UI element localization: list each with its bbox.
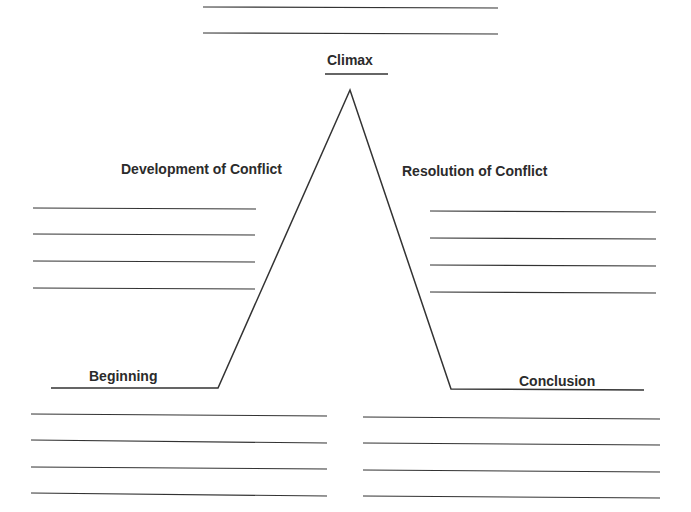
beginning-writing-line (31, 414, 327, 416)
resolution-writing-line (430, 292, 656, 293)
beginning-writing-line (31, 493, 327, 496)
climax-writing-line (203, 7, 498, 8)
beginning-label: Beginning (89, 368, 157, 384)
conclusion-label: Conclusion (519, 373, 595, 389)
plot-diagram-canvas (0, 0, 691, 512)
climax-writing-line (203, 33, 498, 34)
development-writing-line (33, 234, 255, 235)
development-writing-line (33, 208, 256, 209)
plot-mountain-line (51, 90, 644, 390)
beginning-writing-line (31, 467, 327, 469)
resolution-writing-line (430, 211, 656, 212)
climax-label: Climax (327, 52, 373, 68)
conclusion-writing-line (363, 470, 660, 472)
conclusion-writing-line (363, 443, 660, 445)
beginning-writing-line (31, 440, 327, 443)
resolution-writing-line (430, 265, 656, 266)
resolution-writing-line (430, 238, 656, 239)
conclusion-writing-line (363, 417, 660, 419)
resolution-label: Resolution of Conflict (402, 163, 547, 179)
development-label: Development of Conflict (121, 161, 282, 177)
development-writing-line (33, 261, 255, 262)
conclusion-writing-line (363, 496, 660, 498)
development-writing-line (33, 288, 255, 289)
